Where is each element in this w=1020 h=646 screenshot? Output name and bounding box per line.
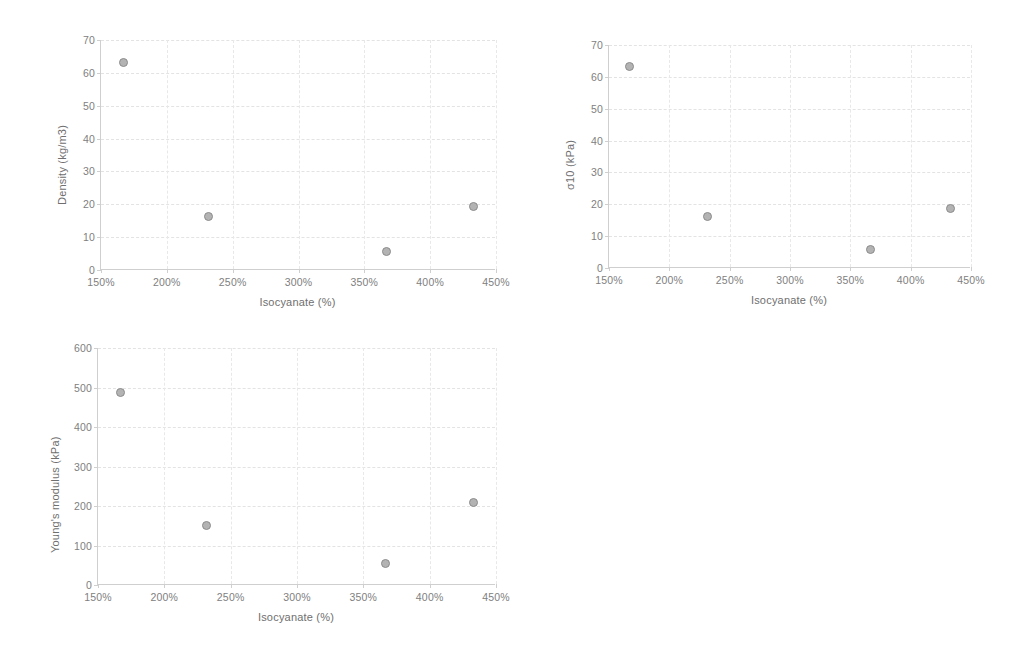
x-axis-label-density: Isocyanate (%) (100, 296, 495, 308)
y-tick-label: 0 (597, 262, 603, 274)
gridline-vertical (297, 348, 298, 584)
y-tick-label: 40 (591, 135, 603, 147)
y-tick-label: 20 (83, 198, 95, 210)
y-tick-label: 400 (74, 421, 92, 433)
x-tick-label: 150% (87, 276, 115, 288)
y-axis-label-density: Density (kg/m3) (56, 125, 68, 205)
x-tick-mark (430, 584, 431, 588)
gridline-vertical (730, 45, 731, 267)
gridline-vertical (364, 40, 365, 269)
y-tick-mark (97, 106, 101, 107)
y-tick-label: 30 (591, 166, 603, 178)
y-tick-mark (94, 348, 98, 349)
x-tick-label: 200% (151, 591, 179, 603)
y-tick-label: 50 (83, 100, 95, 112)
gridline-vertical (496, 40, 497, 269)
x-tick-label: 200% (656, 274, 684, 286)
x-tick-mark (496, 584, 497, 588)
x-tick-label: 300% (776, 274, 804, 286)
gridline-vertical (167, 40, 168, 269)
gridline-vertical (971, 45, 972, 267)
gridline-vertical (430, 348, 431, 584)
y-tick-mark (97, 139, 101, 140)
x-tick-label: 150% (84, 591, 112, 603)
y-tick-label: 20 (591, 198, 603, 210)
x-tick-mark (101, 269, 102, 273)
gridline-vertical (850, 45, 851, 267)
y-axis-label-youngs-modulus: Young's modulus (kPa) (49, 436, 61, 553)
scatter-chart-youngs-modulus: 0100200300400500600150%200%250%300%350%4… (97, 348, 495, 585)
y-tick-label: 0 (86, 579, 92, 591)
x-tick-label: 250% (219, 276, 247, 288)
data-point (202, 521, 211, 530)
y-tick-label: 70 (591, 39, 603, 51)
y-tick-mark (605, 45, 609, 46)
y-tick-label: 60 (591, 71, 603, 83)
gridline-vertical (233, 40, 234, 269)
y-tick-label: 300 (74, 461, 92, 473)
y-tick-label: 40 (83, 133, 95, 145)
x-axis-label-sigma10: Isocyanate (%) (608, 294, 970, 306)
data-point (119, 58, 128, 67)
x-tick-mark (233, 269, 234, 273)
gridline-vertical (363, 348, 364, 584)
x-tick-label: 450% (957, 274, 985, 286)
x-tick-label: 350% (351, 276, 379, 288)
x-axis-label-youngs-modulus: Isocyanate (%) (97, 611, 495, 623)
x-tick-label: 250% (217, 591, 245, 603)
x-tick-label: 250% (716, 274, 744, 286)
x-tick-label: 150% (595, 274, 623, 286)
y-tick-mark (605, 172, 609, 173)
y-tick-mark (94, 506, 98, 507)
x-tick-label: 350% (350, 591, 378, 603)
y-tick-label: 600 (74, 342, 92, 354)
y-tick-mark (94, 467, 98, 468)
gridline-vertical (231, 348, 232, 584)
x-tick-mark (299, 269, 300, 273)
y-tick-mark (94, 546, 98, 547)
gridline-vertical (669, 45, 670, 267)
plot-area-youngs-modulus: 0100200300400500600150%200%250%300%350%4… (97, 348, 495, 585)
y-tick-mark (94, 388, 98, 389)
x-tick-label: 200% (153, 276, 181, 288)
y-axis-label-sigma10: σ10 (kPa) (564, 140, 576, 190)
y-tick-mark (97, 73, 101, 74)
y-tick-mark (605, 204, 609, 205)
y-tick-label: 30 (83, 165, 95, 177)
data-point (381, 559, 390, 568)
scatter-chart-density: 010203040506070150%200%250%300%350%400%4… (100, 40, 495, 270)
x-tick-mark (363, 584, 364, 588)
x-tick-label: 400% (897, 274, 925, 286)
data-point (469, 498, 478, 507)
gridline-vertical (430, 40, 431, 269)
gridline-vertical (496, 348, 497, 584)
data-point (469, 202, 478, 211)
gridline-vertical (299, 40, 300, 269)
data-point (204, 212, 213, 221)
x-tick-mark (297, 584, 298, 588)
gridline-vertical (164, 348, 165, 584)
x-tick-label: 400% (416, 591, 444, 603)
x-tick-label: 400% (416, 276, 444, 288)
x-tick-mark (730, 267, 731, 271)
x-tick-mark (167, 269, 168, 273)
data-point (382, 247, 391, 256)
data-point (625, 62, 634, 71)
x-tick-label: 300% (283, 591, 311, 603)
x-tick-mark (850, 267, 851, 271)
data-point (116, 388, 125, 397)
scatter-chart-sigma10: 010203040506070150%200%250%300%350%400%4… (608, 45, 970, 268)
x-tick-mark (790, 267, 791, 271)
y-tick-mark (97, 237, 101, 238)
gridline-vertical (790, 45, 791, 267)
data-point (703, 212, 712, 221)
y-tick-mark (97, 204, 101, 205)
y-tick-mark (605, 141, 609, 142)
y-tick-label: 100 (74, 540, 92, 552)
x-tick-label: 450% (482, 591, 510, 603)
x-tick-label: 350% (837, 274, 865, 286)
y-tick-mark (605, 236, 609, 237)
y-tick-label: 10 (83, 231, 95, 243)
data-point (866, 245, 875, 254)
x-tick-mark (164, 584, 165, 588)
